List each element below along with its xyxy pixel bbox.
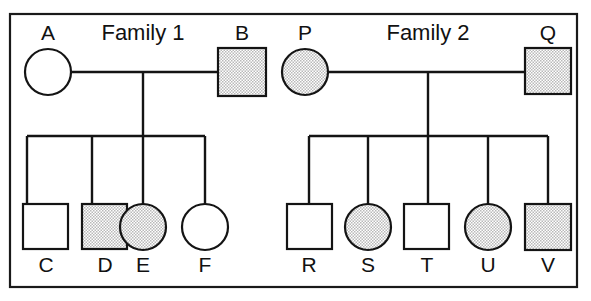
individual-u-circle-affected <box>465 204 511 250</box>
family-1-title: Family 1 <box>101 20 184 45</box>
individual-label-p: P <box>298 21 312 44</box>
individual-label-v: V <box>541 253 555 276</box>
individual-q-square-affected <box>525 48 571 94</box>
individual-c-square-unaffected <box>23 204 68 249</box>
individual-label-e: E <box>136 253 150 276</box>
individual-f-circle-unaffected <box>182 204 228 250</box>
individual-label-q: Q <box>540 21 556 44</box>
pedigree-figure: ABCDEFFamily 1PQRSTUVFamily 2 <box>0 0 591 301</box>
individual-label-b: B <box>235 21 249 44</box>
individual-label-f: F <box>199 253 212 276</box>
individual-e-circle-affected <box>120 204 166 250</box>
pedigree-canvas: ABCDEFFamily 1PQRSTUVFamily 2 <box>0 0 591 301</box>
families-layer: ABCDEFFamily 1PQRSTUVFamily 2 <box>23 20 571 276</box>
individual-label-t: T <box>421 253 434 276</box>
individual-label-u: U <box>480 253 495 276</box>
individual-p-circle-affected <box>282 49 328 95</box>
individual-a-circle-unaffected <box>25 49 71 95</box>
individual-label-d: D <box>97 253 112 276</box>
family-1: ABCDEFFamily 1 <box>23 20 266 276</box>
individual-s-circle-affected <box>345 204 391 250</box>
individual-label-c: C <box>38 253 53 276</box>
individual-label-r: R <box>301 253 316 276</box>
individual-t-square-unaffected <box>404 204 449 249</box>
family-2: PQRSTUVFamily 2 <box>282 20 571 276</box>
family-2-title: Family 2 <box>386 20 469 45</box>
individual-b-square-affected <box>218 48 266 96</box>
individual-label-s: S <box>361 253 375 276</box>
individual-r-square-unaffected <box>287 204 332 249</box>
individual-v-square-affected <box>525 204 571 250</box>
individual-label-a: A <box>41 21 55 44</box>
